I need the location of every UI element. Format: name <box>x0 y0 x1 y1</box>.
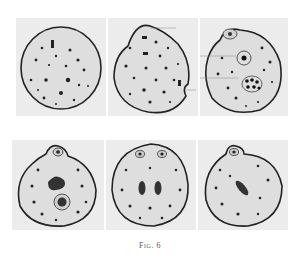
cell-drawing <box>108 18 198 116</box>
cell-drawing <box>198 140 288 230</box>
cell-drawing <box>12 140 104 230</box>
cell-drawing <box>200 18 288 116</box>
figure-panel-3 <box>200 18 288 116</box>
figure-panel-4 <box>12 140 104 230</box>
figure-panel-5 <box>106 140 196 230</box>
figure-panel-1 <box>16 18 106 116</box>
cell-drawing <box>16 18 106 116</box>
cell-drawing <box>106 140 196 230</box>
figure-panel-6 <box>198 140 288 230</box>
figure-caption: Fig. 6 <box>0 241 300 250</box>
figure-panel-2 <box>108 18 198 116</box>
